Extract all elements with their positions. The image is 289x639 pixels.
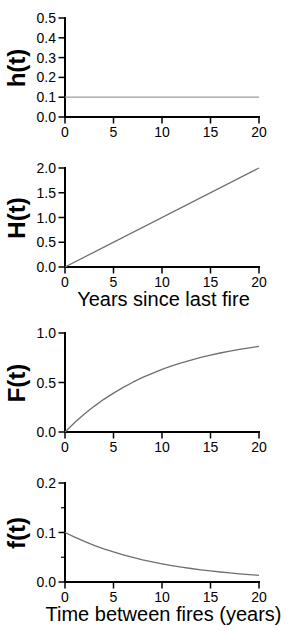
y-tick-label: 0.2 xyxy=(37,475,57,491)
series-line-cumulative-hazard xyxy=(65,168,259,267)
x-tick-label: 20 xyxy=(251,124,267,140)
x-tick-label: 5 xyxy=(110,124,118,140)
x-axis-title-time-between-fires: Time between fires (years) xyxy=(38,603,289,626)
y-tick-label: 0.5 xyxy=(37,375,57,391)
y-tick-label: 0.0 xyxy=(37,259,57,275)
y-tick-label: 0.4 xyxy=(37,30,57,46)
y-tick-label: 0.0 xyxy=(37,424,57,440)
y-tick-label: 0.1 xyxy=(37,525,57,541)
fire-interval-distribution-figure: 0.00.10.20.30.40.505101520 h(t) 0.00.51.… xyxy=(0,0,289,639)
y-axis-title-box: F(t) xyxy=(0,333,34,432)
y-tick-label: 0.5 xyxy=(37,10,57,26)
y-axis-title-Ht: H(t) xyxy=(3,197,31,238)
y-axis-title-box: H(t) xyxy=(0,168,34,267)
panel-cumulative-hazard: 0.00.51.01.52.005101520 H(t) Years since… xyxy=(0,150,289,315)
y-axis-title-box: f(t) xyxy=(0,483,34,582)
y-axis-title-box: h(t) xyxy=(0,18,34,117)
y-tick-label: 0.0 xyxy=(37,574,57,590)
y-tick-label: 1.0 xyxy=(37,325,57,341)
y-tick-label: 2.0 xyxy=(37,160,57,176)
y-tick-label: 1.5 xyxy=(37,185,57,201)
hazard-function-plot: 0.00.10.20.30.40.505101520 xyxy=(0,0,289,150)
x-axis-title-years-since-last-fire: Years since last fire xyxy=(38,288,289,311)
y-axis-title-ft: f(t) xyxy=(3,517,31,549)
x-tick-label: 15 xyxy=(203,439,219,455)
y-axis-title-ht: h(t) xyxy=(3,48,31,87)
panel-cumulative-distribution: 0.00.51.005101520 F(t) xyxy=(0,315,289,465)
panel-hazard-function: 0.00.10.20.30.40.505101520 h(t) xyxy=(0,0,289,150)
series-line-probability-density xyxy=(65,533,259,576)
x-tick-label: 0 xyxy=(61,439,69,455)
y-tick-label: 0.2 xyxy=(37,69,57,85)
x-tick-label: 10 xyxy=(154,439,170,455)
y-tick-label: 0.3 xyxy=(37,50,57,66)
y-axis-title-Ft: F(t) xyxy=(3,363,31,402)
x-tick-label: 10 xyxy=(154,124,170,140)
panel-probability-density: 0.00.10.205101520 f(t) Time between fire… xyxy=(0,465,289,639)
x-tick-label: 20 xyxy=(251,439,267,455)
series-line-cumulative-distribution xyxy=(65,346,259,432)
y-tick-label: 0.0 xyxy=(37,109,57,125)
y-tick-label: 0.5 xyxy=(37,234,57,250)
y-tick-label: 0.1 xyxy=(37,89,57,105)
x-tick-label: 0 xyxy=(61,124,69,140)
x-tick-label: 15 xyxy=(203,124,219,140)
cumulative-distribution-plot: 0.00.51.005101520 xyxy=(0,315,289,465)
y-tick-label: 1.0 xyxy=(37,210,57,226)
x-tick-label: 5 xyxy=(110,439,118,455)
